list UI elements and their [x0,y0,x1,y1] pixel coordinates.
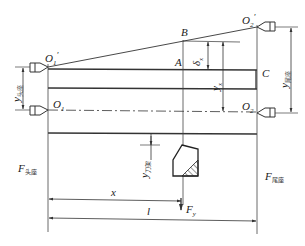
cutting-tool [173,145,198,176]
label-x-dimension: x [110,186,116,198]
displaced-axis-line [48,27,257,67]
label-l-dimension: l [147,205,150,217]
label-y-tailstock: y尾座 [278,71,292,89]
label-y-x: yx [209,82,224,92]
workpiece-upper-edge [48,88,257,89]
workpiece-top-edge [48,69,257,70]
label-fy: Fy [185,203,197,218]
center-axis-line [48,110,257,112]
workpiece-bottom-edge [48,133,257,134]
label-o2-prime: O2′ [242,12,256,29]
tailstock-center-lower [257,108,275,117]
headstock-center-upper [30,63,48,72]
label-y-tool-post: y刀架 [138,161,152,179]
label-f-tailstock: F尾座 [264,170,284,184]
label-o1: O1 [53,98,64,113]
label-a: A [174,56,182,68]
b-extension-line [183,41,240,42]
l-dimension [49,218,256,221]
label-b: B [181,26,188,38]
label-c: C [262,67,270,79]
label-y-headstock: y头座 [10,85,24,103]
label-f-headstock: F头座 [17,162,37,176]
workpiece [48,69,257,134]
headstock-center-lower [30,106,48,115]
label-o1-prime: O1′ [45,50,59,67]
label-delta-x: δx [190,57,205,66]
deflection-diagram: O1′ O1 O2′ O2 B A C δx yx y头座 y尾座 y刀架 F头… [0,0,305,246]
tailstock-center-upper [257,22,275,31]
x-dimension [49,199,181,201]
label-o2: O2 [242,100,254,115]
